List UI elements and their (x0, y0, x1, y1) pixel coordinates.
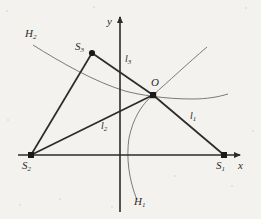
paper-speckle (111, 206, 113, 208)
label-curve-H2: H2 (25, 28, 36, 39)
label-point-S2: S2 (22, 160, 31, 171)
paper-speckle (59, 198, 61, 200)
point-marker-S3 (89, 50, 95, 56)
point-marker-O (150, 92, 156, 98)
label-point-S1: S1 (216, 160, 225, 171)
label-point-O: O (151, 77, 159, 88)
label-point-S3: S3 (75, 41, 84, 52)
segment-l1-o-s1 (153, 95, 224, 155)
curve-H1 (128, 47, 207, 200)
geometry-figure: y x S2 S1 S3 O l1 l2 l3 H2 H1 (0, 0, 261, 219)
point-marker-S2 (28, 152, 34, 158)
label-axis-x: x (238, 160, 243, 171)
label-axis-y: y (107, 16, 112, 27)
label-segment-l2: l2 (101, 121, 107, 131)
paper-speckle (7, 119, 9, 121)
label-segment-l3: l3 (125, 54, 131, 64)
axes-group (18, 17, 240, 212)
label-curve-H1: H1 (134, 196, 145, 207)
label-segment-l1: l1 (190, 111, 196, 121)
segment-l3-o-s3 (92, 53, 153, 95)
segments-group (31, 53, 224, 155)
paper-speckle (93, 6, 95, 8)
paper-speckle (245, 7, 247, 9)
point-marker-S1 (221, 152, 227, 158)
figure-canvas (0, 0, 261, 219)
curves-group (33, 45, 228, 200)
